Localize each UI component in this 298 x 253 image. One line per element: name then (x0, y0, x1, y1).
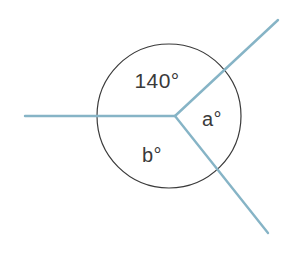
angle-diagram: 140° a° b° (0, 0, 298, 253)
angle-diagram-svg: 140° a° b° (0, 0, 298, 253)
angle-label-140: 140° (134, 69, 179, 92)
ray-lower-right (175, 116, 268, 233)
ray-upper-right (175, 20, 278, 116)
angle-label-a: a° (202, 108, 222, 130)
angle-label-b: b° (142, 144, 162, 166)
